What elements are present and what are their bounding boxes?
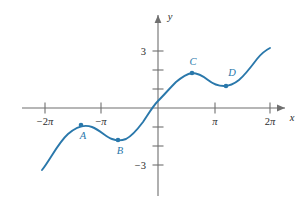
point-d-label: D — [227, 67, 236, 78]
point-b-marker — [116, 138, 121, 143]
x-tick-label-pi: π — [212, 116, 218, 127]
point-d-marker — [224, 84, 229, 89]
point-a-marker — [79, 123, 84, 128]
x-axis-label: x — [289, 112, 295, 123]
y-axis — [155, 15, 162, 196]
x-tick-label-negpi: −π — [95, 116, 107, 127]
x-axis-arrowhead — [277, 105, 285, 112]
x-tick-label-neg2pi: −2π — [37, 116, 54, 127]
y-axis-label: y — [167, 11, 173, 22]
point-c-label: C — [189, 56, 197, 67]
point-b-label: B — [117, 145, 124, 156]
point-c-marker — [190, 71, 195, 76]
function-graph: −2π −π π 2π 3 −3 x y — [0, 0, 308, 213]
figure-container: −2π −π π 2π 3 −3 x y — [0, 0, 308, 213]
y-tick-label-neg3: −3 — [135, 160, 146, 171]
x-tick-labels: −2π −π π 2π — [37, 116, 276, 127]
point-a-label: A — [79, 130, 87, 141]
curve-path — [42, 48, 270, 170]
y-axis-arrowhead — [155, 15, 162, 23]
x-tick-label-2pi: 2π — [265, 116, 276, 127]
y-tick-label-3: 3 — [141, 46, 146, 57]
